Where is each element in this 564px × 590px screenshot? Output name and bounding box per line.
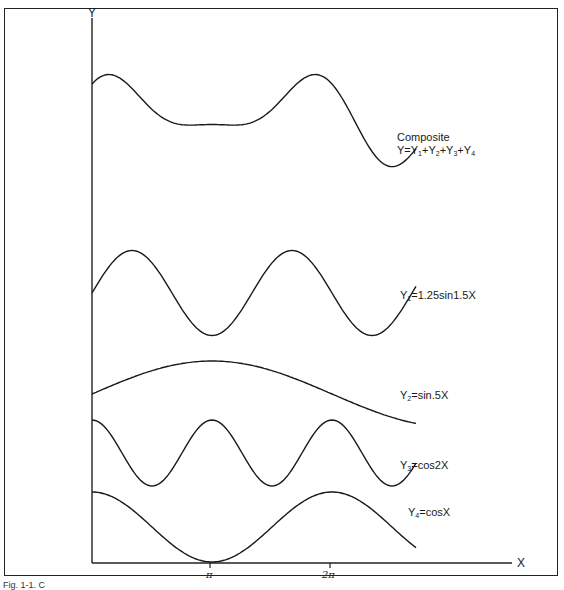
curve-y4	[92, 492, 416, 562]
curve-composite	[92, 75, 416, 167]
y1-label: Y1=1.25sin1.5X	[400, 289, 476, 305]
curve-y1	[92, 251, 416, 336]
y4-label: Y4=cosX	[408, 506, 450, 522]
y-axis-label: Y	[88, 6, 96, 20]
composite-formula-label: Y=Y1+Y2+Y3+Y4	[397, 144, 475, 160]
tick-label-pi: π	[206, 569, 213, 580]
tick-label-2pi: 2π	[322, 569, 335, 580]
y3-label: Y3=cos2X	[400, 459, 448, 475]
figure-caption: Fig. 1-1. C	[3, 580, 45, 590]
y2-label: Y2=sin.5X	[400, 389, 448, 405]
x-axis-label: X	[517, 556, 525, 570]
curve-y2	[92, 361, 416, 423]
curve-y3	[92, 420, 416, 486]
composite-title-label: Composite	[397, 131, 450, 144]
